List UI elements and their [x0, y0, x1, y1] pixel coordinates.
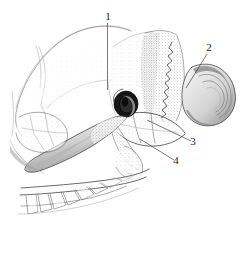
label-2-text: 2 [206, 41, 212, 53]
occipital-plate [141, 31, 184, 123]
label-1-text: 1 [105, 10, 111, 22]
skull-illustration: 1 2 3 4 [0, 0, 242, 253]
label-4-text: 4 [173, 154, 179, 166]
label-3-text: 3 [190, 135, 196, 147]
anatomical-figure: 1 2 3 4 [0, 0, 242, 253]
